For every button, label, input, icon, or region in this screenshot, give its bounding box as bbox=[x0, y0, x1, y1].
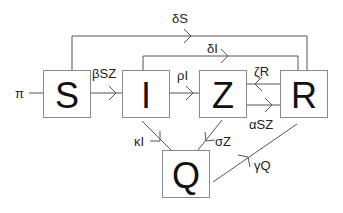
node-S: S bbox=[44, 71, 91, 118]
edge-alpha-label: αSZ bbox=[249, 117, 273, 132]
edge-gamma-line bbox=[213, 124, 297, 182]
node-Q: Q bbox=[163, 151, 210, 198]
node-R-label: R bbox=[291, 75, 317, 116]
edge-kappa-arrowhead bbox=[150, 131, 160, 141]
node-S-label: S bbox=[55, 75, 79, 116]
edge-pi-label: π bbox=[15, 86, 24, 101]
edge-deltaI-label: δI bbox=[207, 41, 218, 56]
node-I-label: I bbox=[141, 75, 151, 116]
edge-kappa-label: κI bbox=[134, 134, 144, 149]
compartment-diagram: S I Z R Q π βSZ ρI ζR αSZ δS δI κI σZ γQ bbox=[0, 0, 343, 213]
edge-zeta-label: ζR bbox=[254, 64, 269, 79]
edge-deltaS-line bbox=[72, 36, 307, 70]
edge-beta-label: βSZ bbox=[92, 66, 116, 81]
edge-deltaS-label: δS bbox=[172, 11, 188, 26]
node-Z-label: Z bbox=[212, 75, 234, 116]
node-R: R bbox=[281, 71, 328, 118]
node-I: I bbox=[123, 71, 170, 118]
node-Q-label: Q bbox=[172, 155, 200, 196]
edge-gamma-label: γQ bbox=[254, 158, 271, 173]
edge-kappa-line bbox=[142, 121, 171, 150]
edge-rho-label: ρI bbox=[177, 68, 188, 83]
edge-sigma-label: σZ bbox=[215, 134, 231, 149]
node-Z: Z bbox=[200, 71, 247, 118]
edge-deltaI-line bbox=[143, 56, 298, 70]
